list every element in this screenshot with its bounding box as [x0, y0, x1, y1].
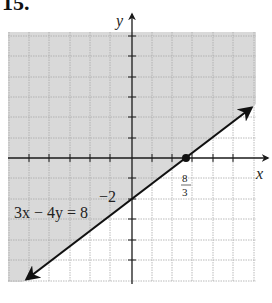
y-axis-label: y — [114, 12, 124, 30]
x-axis-label: x — [255, 165, 263, 182]
equation-label: 3x − 4y = 8 — [14, 204, 88, 222]
x-intercept-numerator: 8 — [182, 172, 188, 184]
graph: y x −2 8 3 3x − 4y = 8 — [0, 0, 272, 303]
y-intercept-label: −2 — [99, 188, 116, 205]
x-intercept-point — [182, 154, 190, 162]
x-intercept-denominator: 3 — [182, 186, 188, 198]
